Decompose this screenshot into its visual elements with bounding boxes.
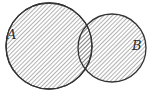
label-b: B [131,38,142,53]
venn-diagram: A B [0,0,149,95]
label-a: A [6,27,16,42]
